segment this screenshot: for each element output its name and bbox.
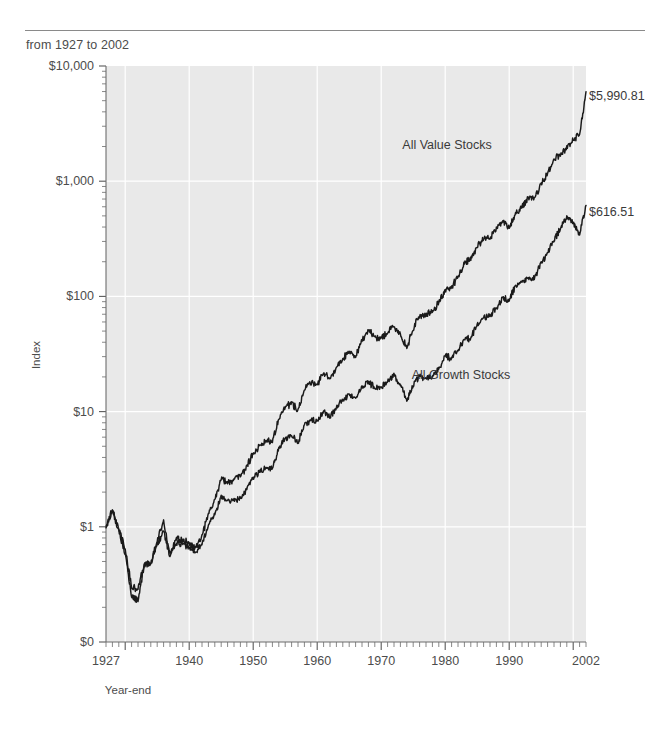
- x-axis-tick-label: 1927: [92, 654, 120, 668]
- x-axis-tick-label: 1950: [239, 654, 267, 668]
- y-axis-tick-label: $0: [0, 635, 94, 649]
- plot-svg: [0, 0, 672, 733]
- y-axis-tick-label: $10: [0, 405, 94, 419]
- chart-page: from 1927 to 2002 $10,000$1,000$100$10$1…: [0, 0, 672, 733]
- x-axis-title: Year-end: [105, 684, 151, 696]
- x-axis-tick-label: 1980: [431, 654, 459, 668]
- x-axis-tick-label: 1990: [495, 654, 523, 668]
- endpoint-label-all-growth-stocks: $616.51: [589, 205, 634, 219]
- series-annotation-all-growth-stocks: All Growth Stocks: [412, 368, 511, 382]
- x-axis-tick-label: 1940: [175, 654, 203, 668]
- chart-container: $10,000$1,000$100$10$1$0 192719401950196…: [0, 0, 672, 733]
- series-line-all-value-stocks: [106, 92, 586, 603]
- y-axis-tick-label: $10,000: [0, 59, 94, 73]
- x-axis-tick-label: 1970: [367, 654, 395, 668]
- x-axis-tick-label: 2002: [572, 654, 600, 668]
- endpoint-label-all-value-stocks: $5,990.81: [589, 89, 645, 103]
- y-axis-tick-label: $1,000: [0, 174, 94, 188]
- series-annotation-all-value-stocks: All Value Stocks: [402, 138, 491, 152]
- y-axis-title: Index: [30, 341, 42, 369]
- y-axis-tick-label: $1: [0, 520, 94, 534]
- x-axis-tick-label: 1960: [303, 654, 331, 668]
- y-axis-tick-label: $100: [0, 289, 94, 303]
- series-line-all-growth-stocks: [106, 205, 586, 591]
